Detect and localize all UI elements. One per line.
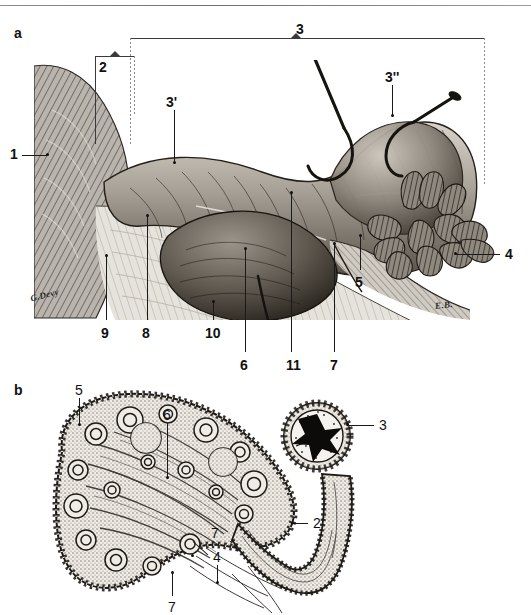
leader-dot-a-9 <box>105 254 108 257</box>
label-b-6: 6 <box>163 408 171 422</box>
label-b-5: 5 <box>75 383 83 397</box>
label-a-4: 4 <box>505 247 513 261</box>
artist-signature-right: E.B. <box>435 299 454 311</box>
label-a-8: 8 <box>142 326 150 340</box>
leader-b-7-lower <box>172 573 173 596</box>
panel-letter-b: b <box>14 383 23 397</box>
label-a-3-double-prime: 3'' <box>385 70 399 84</box>
label-b-7-upper: 7 <box>211 526 219 540</box>
leader-dot-b-4 <box>216 581 219 584</box>
label-a-11: 11 <box>286 358 301 372</box>
leader-b-2 <box>292 523 308 524</box>
label-a-3: 3 <box>296 22 304 36</box>
leader-a-3dprime <box>392 85 393 116</box>
label-b-4: 4 <box>213 550 221 564</box>
leader-a-9 <box>106 256 107 320</box>
label-a-7: 7 <box>330 358 338 372</box>
leader-a-10 <box>213 302 214 320</box>
leader-dot-a-11 <box>290 191 293 194</box>
leader-dot-b-6 <box>166 476 169 479</box>
leader-dot-b-5 <box>78 423 81 426</box>
leader-dot-a-5 <box>359 234 362 237</box>
label-a-5: 5 <box>355 275 363 289</box>
label-a-10: 10 <box>205 326 221 340</box>
leader-b-5 <box>79 398 80 425</box>
leader-dot-a-3prime <box>173 161 176 164</box>
leader-dot-b-7-upper <box>191 554 194 557</box>
label-b-2: 2 <box>313 516 321 530</box>
leader-a-4 <box>455 254 500 255</box>
label-a-1: 1 <box>10 147 18 161</box>
leader-a-8 <box>147 216 148 320</box>
leader-a-3prime <box>174 110 175 163</box>
leader-a-7 <box>334 244 335 352</box>
label-a-6: 6 <box>240 358 248 372</box>
leader-b-6 <box>167 423 168 478</box>
leader-dot-b-3 <box>346 423 349 426</box>
label-b-7-lower: 7 <box>168 600 176 614</box>
panel-b-artwork <box>56 394 352 613</box>
duct-cross-section <box>284 403 350 469</box>
leader-dot-a-7 <box>333 242 336 245</box>
leader-dot-a-8 <box>146 214 149 217</box>
panel-a-artwork <box>34 43 494 332</box>
leader-a-5 <box>360 235 361 270</box>
label-a-2: 2 <box>99 60 107 74</box>
panel-letter-a: a <box>14 26 22 40</box>
leader-dot-a-6 <box>244 247 247 250</box>
leader-dot-a-4 <box>454 252 457 255</box>
leader-dot-a-3dprime <box>391 114 394 117</box>
leader-b-3 <box>347 425 374 426</box>
leader-a-6 <box>245 249 246 352</box>
leader-dot-b-2 <box>291 521 294 524</box>
leader-a-1 <box>22 155 48 156</box>
leader-dot-b-7-lower <box>171 571 174 574</box>
leader-dot-a-1 <box>46 153 49 156</box>
label-a-9: 9 <box>101 326 109 340</box>
leader-a-11 <box>291 193 292 352</box>
label-a-3-prime: 3' <box>166 95 177 109</box>
label-b-3: 3 <box>379 418 387 432</box>
leader-dot-a-10 <box>212 300 215 303</box>
